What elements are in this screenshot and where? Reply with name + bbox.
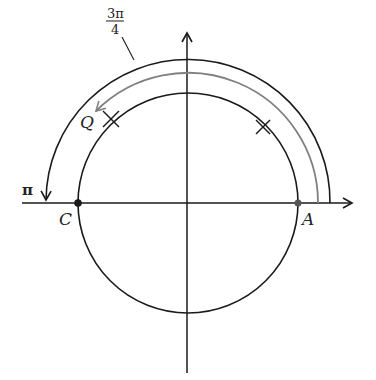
point-q-label: Q xyxy=(80,112,94,132)
angle-label-leader xyxy=(122,37,134,60)
point-c-label: C xyxy=(59,209,72,229)
point-a-label: A xyxy=(300,209,314,229)
point-c-dot xyxy=(74,199,82,207)
gray-arc-3pi-4 xyxy=(96,73,318,203)
pi-label: π xyxy=(22,181,33,199)
point-a-dot xyxy=(295,200,302,207)
angle-label-denominator: 4 xyxy=(111,22,119,37)
angle-label-numerator: 3π xyxy=(107,6,124,21)
unit-circle-diagram: 3π 4 π Q C A xyxy=(0,0,376,380)
